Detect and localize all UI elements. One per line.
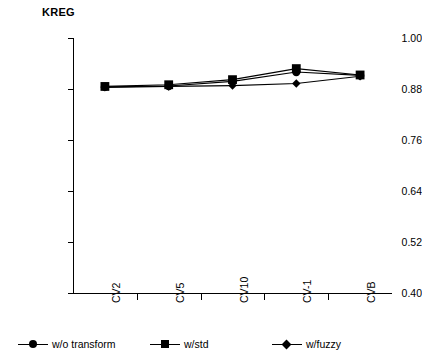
diamond-marker-icon: [282, 339, 292, 349]
series-diamond: [101, 72, 365, 91]
legend-marker: [29, 340, 37, 348]
circle-marker-icon: [29, 340, 37, 348]
chart-legend: w/o transformw/stdw/fuzzy: [0, 336, 422, 354]
legend-swatch: [150, 337, 180, 351]
square-marker-icon: [161, 340, 169, 348]
legend-item: w/fuzzy: [272, 336, 341, 352]
legend-item: w/std: [150, 336, 209, 352]
legend-swatch: [18, 337, 48, 351]
legend-label: w/o transform: [52, 338, 116, 350]
data-point-marker: [292, 64, 301, 73]
legend-label: w/fuzzy: [306, 338, 341, 350]
legend-marker: [283, 340, 290, 348]
legend-swatch: [272, 337, 302, 351]
series-layer: [0, 0, 422, 363]
kreg-line-chart: KREG 1.000.880.760.640.520.40 CV2CV5CV10…: [0, 0, 422, 363]
legend-marker: [161, 340, 169, 348]
legend-item: w/o transform: [18, 336, 116, 352]
data-point-marker: [292, 79, 300, 87]
legend-label: w/std: [184, 338, 209, 350]
